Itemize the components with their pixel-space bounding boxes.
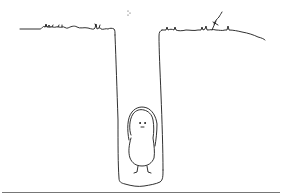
sparkle-mark bbox=[127, 10, 130, 15]
figure-body bbox=[129, 110, 155, 166]
figure-legs bbox=[134, 166, 151, 173]
illustration-canvas bbox=[0, 0, 283, 193]
hole-drawing bbox=[0, 0, 283, 193]
hole-left-wall bbox=[115, 35, 163, 186]
figure-hood bbox=[128, 107, 157, 146]
bottom-divider bbox=[2, 192, 280, 193]
right-ground bbox=[162, 26, 265, 40]
left-ground bbox=[20, 24, 115, 35]
stick-sign bbox=[212, 12, 222, 30]
hole-right-wall bbox=[159, 30, 163, 170]
